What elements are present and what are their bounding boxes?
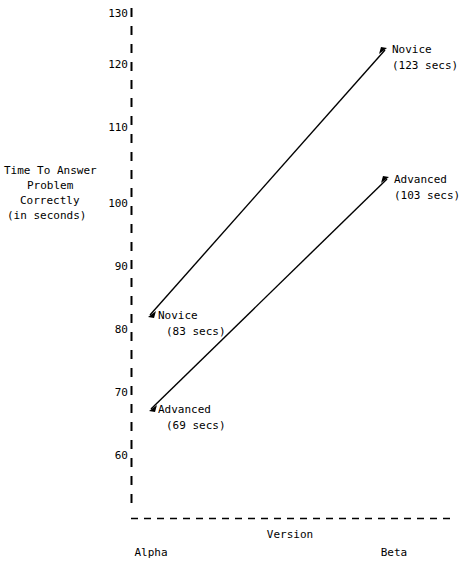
annotation-novice-alpha-name: Novice (158, 308, 198, 323)
x-category-label-beta: Beta (364, 546, 424, 559)
annotation-novice-alpha-value: (83 secs) (166, 324, 226, 339)
y-tick-label-90: 90 (94, 260, 128, 273)
x-axis-title: Version (250, 528, 330, 541)
y-tick-label-130: 130 (94, 7, 128, 20)
annotation-novice-beta-name: Novice (392, 42, 432, 57)
y-tick-label-60: 60 (94, 449, 128, 462)
y-axis-title-line-3: Correctly (20, 193, 80, 208)
y-axis-title-line-4: (in seconds) (7, 208, 86, 223)
chart-canvas (0, 0, 459, 561)
y-tick-label-110: 110 (94, 121, 128, 134)
y-tick-label-100: 100 (94, 197, 128, 210)
x-category-label-alpha: Alpha (121, 546, 181, 559)
y-tick-label-70: 70 (94, 386, 128, 399)
series-line-advanced (151, 179, 387, 409)
annotation-novice-beta-value: (123 secs) (392, 58, 458, 73)
y-axis-title-line-2: Problem (27, 178, 73, 193)
marker-advanced-alpha (149, 405, 157, 412)
annotation-advanced-beta-value: (103 secs) (394, 188, 459, 203)
y-axis-title-line-1: Time To Answer (4, 163, 97, 178)
annotation-advanced-beta-name: Advanced (394, 172, 447, 187)
annotation-advanced-alpha-value: (69 secs) (166, 418, 226, 433)
series-line-novice (150, 50, 385, 315)
y-tick-label-80: 80 (94, 323, 128, 336)
annotation-advanced-alpha-name: Advanced (158, 402, 211, 417)
marker-advanced-beta (381, 176, 389, 183)
chart-figure: 130 120 110 100 90 80 70 60 Time To Answ… (0, 0, 459, 561)
y-tick-label-120: 120 (94, 58, 128, 71)
